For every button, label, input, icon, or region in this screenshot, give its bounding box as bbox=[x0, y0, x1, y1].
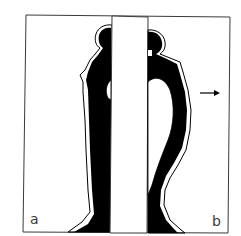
panel-label-b: b bbox=[212, 214, 221, 228]
center-strip bbox=[110, 16, 148, 233]
panel-label-a: a bbox=[30, 212, 39, 226]
diagram-figure: a b bbox=[0, 0, 241, 236]
diagram-canvas bbox=[0, 0, 241, 236]
